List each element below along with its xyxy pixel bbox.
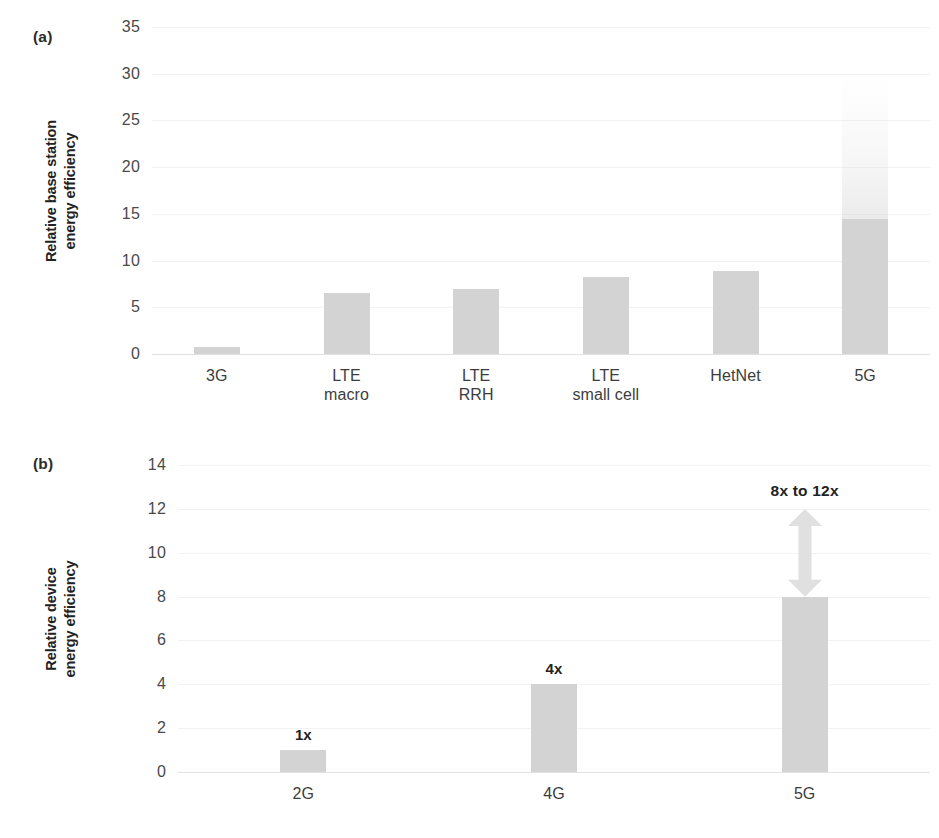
x-category-label-lte-macro: LTE macro	[282, 367, 412, 405]
y-tick-label-5: 5	[100, 299, 140, 315]
bar-value-label-2g: 1x	[178, 726, 429, 743]
gridline-0	[152, 354, 930, 355]
x-category-label-5g: 5G	[800, 367, 930, 386]
bar-2g	[280, 750, 326, 772]
y-tick-label-25: 25	[100, 112, 140, 128]
y-tick-label-20: 20	[100, 159, 140, 175]
panel-b: (b) Relative device energy efficiency 14…	[0, 430, 939, 838]
y-tick-label-2: 2	[126, 720, 166, 736]
y-tick-label-4: 4	[126, 676, 166, 692]
x-category-label-lte-small-cell: LTE small cell	[541, 367, 671, 405]
gridline-25	[152, 120, 930, 121]
bar-3g	[194, 347, 240, 354]
gridline-15	[152, 214, 930, 215]
bar-5g	[842, 219, 888, 354]
gridline-10	[152, 261, 930, 262]
panel-a-plot-area: 35302520151050	[152, 27, 930, 354]
panel-b-tag: (b)	[33, 455, 53, 473]
panel-b-y-axis-title: Relative device energy efficiency	[42, 504, 80, 734]
x-category-label-3g: 3G	[152, 367, 282, 386]
gridline-20	[152, 167, 930, 168]
range-annotation-label: 8x to 12x	[705, 482, 905, 500]
gridline-14	[178, 465, 930, 466]
bar-hetnet	[713, 271, 759, 354]
y-tick-label-14: 14	[126, 457, 166, 473]
bar-lte-macro	[324, 293, 370, 354]
y-tick-label-8: 8	[126, 589, 166, 605]
y-tick-label-0: 0	[126, 764, 166, 780]
double-headed-arrow-icon	[788, 509, 822, 597]
bar-5g	[782, 597, 828, 772]
y-tick-label-12: 12	[126, 501, 166, 517]
y-tick-label-15: 15	[100, 206, 140, 222]
bar-value-label-4g: 4x	[429, 660, 680, 677]
y-tick-label-6: 6	[126, 632, 166, 648]
x-category-label-lte-rrh: LTE RRH	[411, 367, 541, 405]
x-category-label-2g: 2G	[178, 785, 429, 804]
bar-4g	[531, 684, 577, 772]
figure-root: (a) Relative base station energy efficie…	[0, 0, 939, 838]
gridline-0	[178, 772, 930, 773]
panel-a-tag: (a)	[33, 28, 53, 46]
x-category-label-hetnet: HetNet	[671, 367, 801, 386]
x-category-label-4g: 4G	[429, 785, 680, 804]
panel-a-y-axis-title: Relative base station energy efficiency	[42, 61, 80, 321]
gridline-30	[152, 74, 930, 75]
bar-lte-rrh	[453, 289, 499, 354]
x-category-label-5g: 5G	[679, 785, 930, 804]
bar-5g-faded-extension	[842, 74, 888, 219]
gridline-35	[152, 27, 930, 28]
gridline-5	[152, 307, 930, 308]
bar-lte-small-cell	[583, 277, 629, 354]
y-tick-label-30: 30	[100, 66, 140, 82]
panel-a: (a) Relative base station energy efficie…	[0, 0, 939, 430]
y-tick-label-10: 10	[100, 253, 140, 269]
y-tick-label-10: 10	[126, 545, 166, 561]
y-tick-label-0: 0	[100, 346, 140, 362]
y-tick-label-35: 35	[100, 19, 140, 35]
